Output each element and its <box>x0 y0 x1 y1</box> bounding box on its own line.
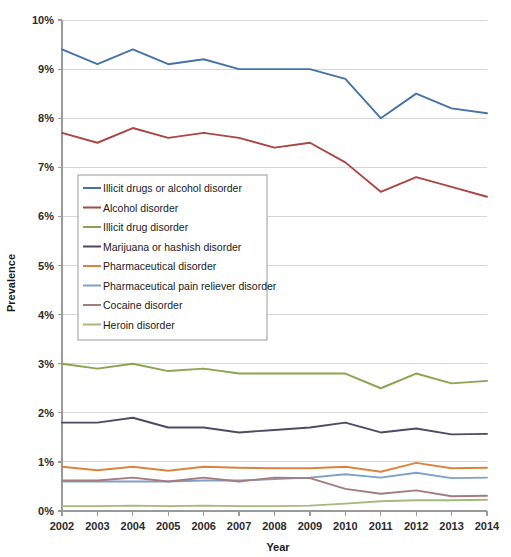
series-line-heroin-disorder <box>62 500 487 506</box>
x-tick-label: 2004 <box>121 520 146 532</box>
series-line-marijuana-or-hashish-disorder <box>62 418 487 435</box>
y-tick-label: 7% <box>38 161 54 173</box>
y-axis-title: Prevalence <box>5 254 17 312</box>
y-tick-label: 8% <box>38 112 54 124</box>
x-tick-label: 2005 <box>156 520 180 532</box>
y-tick-label: 1% <box>38 456 54 468</box>
legend-label-3: Illicit drug disorder <box>103 221 189 233</box>
x-tick-label: 2010 <box>333 520 357 532</box>
y-axis: 0%1%2%3%4%5%6%7%8%9%10% <box>32 14 62 517</box>
series-line-cocaine-disorder <box>62 478 487 497</box>
legend-label-8: Heroin disorder <box>103 319 175 331</box>
chart-canvas: 0%1%2%3%4%5%6%7%8%9%10% 2002200320042005… <box>0 0 511 557</box>
y-tick-label: 6% <box>38 210 54 222</box>
x-tick-label: 2007 <box>227 520 251 532</box>
x-tick-label: 2003 <box>85 520 109 532</box>
series-line-illicit-drug-disorder <box>62 364 487 389</box>
y-tick-label: 4% <box>38 309 54 321</box>
y-tick-label: 5% <box>38 260 54 272</box>
legend-label-6: Pharmaceutical pain reliever disorder <box>103 280 277 292</box>
x-tick-label: 2013 <box>439 520 463 532</box>
x-tick-label: 2014 <box>475 520 500 532</box>
legend-label-4: Marijuana or hashish disorder <box>103 241 242 253</box>
legend-box <box>78 175 267 340</box>
chart-legend: Illicit drugs or alcohol disorderAlcohol… <box>78 175 277 340</box>
prevalence-line-chart: 0%1%2%3%4%5%6%7%8%9%10% 2002200320042005… <box>0 0 511 557</box>
x-axis-title: Year <box>266 541 290 553</box>
x-tick-label: 2002 <box>50 520 74 532</box>
y-tick-label: 0% <box>38 505 54 517</box>
x-tick-label: 2012 <box>404 520 428 532</box>
y-tick-label: 2% <box>38 407 54 419</box>
legend-label-5: Pharmaceutical disorder <box>103 260 217 272</box>
y-tick-label: 9% <box>38 63 54 75</box>
x-axis: 2002200320042005200620072008200920102011… <box>50 511 500 532</box>
legend-label-7: Cocaine disorder <box>103 299 183 311</box>
series-line-pharmaceutical-disorder <box>62 463 487 472</box>
x-tick-label: 2011 <box>369 520 393 532</box>
x-tick-label: 2006 <box>191 520 215 532</box>
y-tick-label: 3% <box>38 358 54 370</box>
legend-label-2: Alcohol disorder <box>103 202 179 214</box>
legend-label-1: Illicit drugs or alcohol disorder <box>103 182 242 194</box>
y-tick-label: 10% <box>32 14 54 26</box>
x-tick-label: 2009 <box>298 520 322 532</box>
series-line-illicit-drugs-or-alcohol-disorder <box>62 49 487 118</box>
x-tick-label: 2008 <box>262 520 286 532</box>
